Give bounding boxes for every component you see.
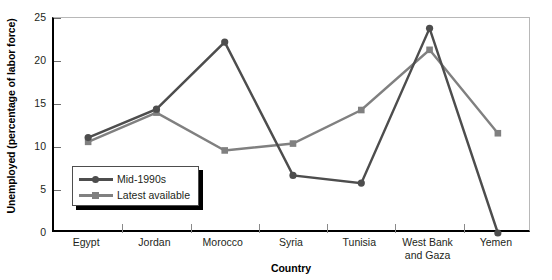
y-tick-label: 20 [22, 54, 46, 66]
legend-item-latest-available: Latest available [79, 187, 192, 203]
y-tick-mark [54, 147, 61, 148]
x-tick-label: Egypt [73, 236, 100, 249]
y-tick-label: 10 [22, 140, 46, 152]
data-point [221, 147, 228, 154]
data-point [358, 107, 365, 114]
y-tick-label: 5 [22, 183, 46, 195]
data-point [85, 134, 92, 141]
x-axis-separator [259, 224, 260, 233]
legend-item-mid1990s: Mid-1990s [79, 171, 192, 187]
x-axis-separator [395, 224, 396, 233]
data-point [289, 172, 296, 179]
y-tick-label: 25 [22, 11, 46, 23]
x-axis-title: Country [52, 262, 530, 274]
x-axis-separator [122, 224, 123, 233]
x-tick-label: Morocco [203, 236, 243, 249]
chart-legend: Mid-1990s Latest available [72, 166, 199, 206]
x-tick-label: Jordan [138, 236, 170, 249]
x-tick-label: Syria [279, 236, 303, 249]
legend-swatch-square-icon [79, 189, 113, 201]
y-tick-mark [54, 190, 61, 191]
y-axis-title: Unemployed (percentage of labor force) [0, 0, 22, 232]
data-point [153, 106, 160, 113]
legend-label: Mid-1990s [117, 173, 166, 185]
data-point [290, 140, 297, 147]
data-point [221, 38, 228, 45]
x-axis-separator [191, 224, 192, 233]
data-point [358, 180, 365, 187]
legend-swatch-circle-icon [79, 173, 113, 185]
data-point [426, 47, 433, 54]
y-axis-ticks: 0510152025 [22, 0, 46, 280]
data-point [495, 130, 502, 137]
y-tick-label: 0 [22, 226, 46, 238]
series-line [88, 50, 498, 151]
y-tick-mark [54, 18, 61, 19]
y-tick-mark [54, 104, 61, 105]
x-tick-label: Tunisia [343, 236, 376, 249]
y-tick-mark [54, 61, 61, 62]
data-point [426, 25, 433, 32]
x-axis-separator [327, 224, 328, 233]
y-tick-label: 15 [22, 97, 46, 109]
chart-figure: Unemployed (percentage of labor force) 0… [0, 0, 552, 280]
x-axis-separator [464, 224, 465, 233]
legend-label: Latest available [117, 189, 190, 201]
x-tick-label: West Bank and Gaza [402, 236, 453, 261]
x-tick-label: Yemen [480, 236, 512, 249]
